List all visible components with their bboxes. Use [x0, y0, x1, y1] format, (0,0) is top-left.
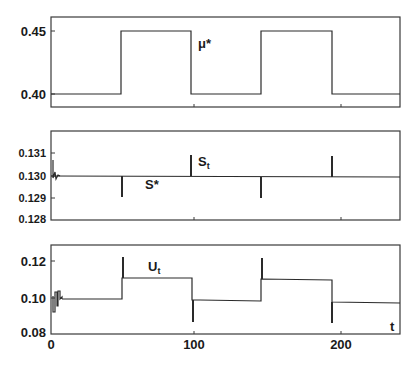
s-t-label: St	[198, 154, 210, 171]
figure-three-panel-time-series: 0.45 0.40 μ* 0.131 0.130 0.129 0.128 St …	[0, 0, 416, 368]
ytick-label: 0.45	[21, 24, 46, 39]
ytick-label: 0.131	[18, 147, 46, 159]
panel-s: 0.131 0.130 0.129 0.128 St S*	[18, 131, 400, 225]
u-t-label: Ut	[148, 259, 160, 276]
u-t-curve	[62, 278, 400, 303]
u-initial-transient	[53, 291, 62, 312]
xtick-label: 200	[330, 337, 352, 352]
ytick-label: 0.10	[21, 291, 46, 306]
ytick-label: 0.129	[18, 192, 46, 204]
xtick-label: 0	[47, 337, 54, 352]
x-axis-label: t	[390, 319, 395, 334]
panel-mu-star: 0.45 0.40 μ*	[21, 17, 400, 107]
s-star-label: S*	[145, 177, 160, 192]
ytick-label: 0.12	[21, 254, 46, 269]
ytick-label: 0.40	[21, 87, 46, 102]
panel-frame-middle	[51, 131, 400, 220]
xtick-label: 100	[183, 337, 205, 352]
mu-star-curve	[51, 31, 400, 94]
mu-star-label: μ*	[198, 36, 212, 51]
ytick-label: 0.08	[21, 325, 46, 340]
s-star-baseline	[51, 176, 400, 177]
panel-u: 0.12 0.10 0.08 Ut 0 100 200 t	[21, 245, 400, 352]
ytick-label: 0.128	[18, 213, 46, 225]
ytick-label: 0.130	[18, 170, 46, 182]
panel-frame-bottom	[51, 245, 400, 334]
